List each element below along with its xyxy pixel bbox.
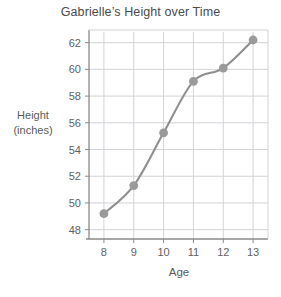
- x-tick-label: 13: [247, 246, 259, 258]
- y-tick-label: 62: [69, 37, 81, 49]
- data-point-marker: [189, 77, 198, 86]
- series-line: [104, 40, 253, 214]
- data-point-marker: [249, 36, 258, 45]
- x-tick-label: 11: [188, 246, 199, 258]
- data-point-marker: [159, 128, 168, 137]
- y-tick-label: 60: [69, 63, 81, 75]
- y-tick-label: 52: [69, 170, 81, 182]
- x-tick-label: 10: [157, 246, 169, 258]
- axis-ticks: [85, 43, 253, 243]
- data-point-marker: [100, 209, 109, 218]
- data-series: [100, 36, 258, 218]
- plot-frame: [86, 30, 268, 239]
- y-tick-labels: 4850525456586062: [69, 37, 81, 236]
- x-tick-label: 8: [101, 246, 107, 258]
- gridlines: [89, 32, 268, 239]
- y-tick-label: 54: [69, 144, 81, 156]
- x-tick-labels: 8910111213: [101, 246, 259, 258]
- data-point-marker: [129, 181, 138, 190]
- y-tick-label: 48: [69, 224, 81, 236]
- x-tick-label: 9: [131, 246, 137, 258]
- y-tick-label: 58: [69, 90, 81, 102]
- plot-area: 4850525456586062 8910111213: [0, 0, 281, 297]
- y-tick-label: 56: [69, 117, 81, 129]
- x-tick-label: 12: [217, 246, 229, 258]
- line-chart-figure: Gabrielle’s Height over Time Height (inc…: [0, 0, 281, 297]
- y-tick-label: 50: [69, 197, 81, 209]
- data-point-marker: [219, 64, 228, 73]
